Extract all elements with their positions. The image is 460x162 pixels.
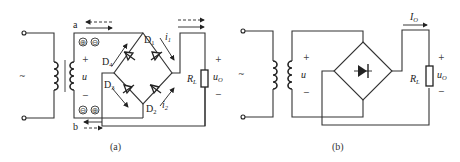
- output-minus-a: −: [215, 90, 222, 99]
- diode-d1-label: D1: [144, 34, 154, 46]
- figure-b: ~ + u − IO RL + uO − (b): [238, 11, 447, 153]
- bridge-right-wire: [172, 33, 205, 73]
- primary-coil: [54, 62, 58, 90]
- diode-d2-label: D2: [146, 103, 156, 115]
- transformer-a: [54, 60, 74, 92]
- primary-wire-b: [245, 31, 273, 117]
- secondary-plus: +: [82, 55, 89, 64]
- d4-current-arrow: [112, 44, 127, 66]
- bridge-right-wire-b: [392, 30, 429, 71]
- secondary-coil: [70, 62, 74, 90]
- output-voltage-label-b: uO: [437, 69, 447, 81]
- caption-b: (b): [332, 141, 344, 153]
- diode-d3: [123, 85, 134, 93]
- output-plus-a: +: [215, 55, 222, 64]
- polarity-bottom-2: ⊕: [92, 106, 99, 115]
- caption-a: (a): [110, 141, 121, 153]
- load-label-a: RL: [186, 73, 197, 85]
- output-minus-b: −: [438, 87, 445, 96]
- output-plus-b: +: [438, 53, 445, 62]
- diode-d4-label: D4: [102, 56, 113, 68]
- secondary-minus-b: −: [303, 88, 310, 97]
- input-terminal-bottom: [22, 116, 26, 120]
- secondary-voltage-label-b: u: [301, 69, 306, 80]
- primary-coil-b: [273, 61, 277, 89]
- polarity-top-1: ⊕: [80, 38, 87, 47]
- figure-a: ~ + u − a b ⊕ ⊖ ⊖ ⊕: [19, 19, 223, 153]
- polarity-top: ⊕ ⊖: [79, 38, 99, 47]
- bridge-diode-symbol: [354, 64, 372, 78]
- polarity-bottom: ⊖ ⊕: [79, 106, 99, 115]
- secondary-plus-b: +: [303, 53, 310, 62]
- input-terminal-top: [22, 31, 26, 35]
- terminal-b-label: b: [73, 121, 78, 132]
- polarity-bottom-1: ⊖: [80, 106, 87, 115]
- primary-wire: [26, 33, 54, 118]
- transformer-b: [273, 61, 292, 89]
- polarity-top-2: ⊖: [92, 38, 99, 47]
- secondary-coil-b: [288, 61, 292, 89]
- terminal-a-label: a: [73, 19, 78, 30]
- load-resistor-a: [201, 70, 208, 87]
- output-current-label: IO: [409, 11, 418, 23]
- load-label-b: RL: [409, 73, 420, 85]
- ac-source-symbol: ~: [19, 72, 26, 81]
- secondary-voltage-label: u: [82, 71, 87, 82]
- current-i2-label: i2: [162, 99, 169, 111]
- output-voltage-label-a: uO: [213, 71, 223, 83]
- ac-source-symbol-b: ~: [238, 70, 245, 79]
- input-terminal-bottom-b: [241, 115, 245, 119]
- input-terminal-top-b: [241, 29, 245, 33]
- load-resistor-b: [426, 66, 433, 86]
- secondary-minus: −: [82, 91, 89, 100]
- current-i1-label: i1: [165, 31, 171, 43]
- bridge-rectifier-diagram: ~ + u − a b ⊕ ⊖ ⊖ ⊕: [0, 0, 460, 162]
